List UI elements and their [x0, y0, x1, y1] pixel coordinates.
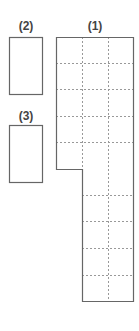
- diagram-canvas: [0, 0, 139, 331]
- l-shape-1: [57, 38, 134, 302]
- rectangle-3: [10, 126, 43, 183]
- rectangle-2: [10, 38, 43, 95]
